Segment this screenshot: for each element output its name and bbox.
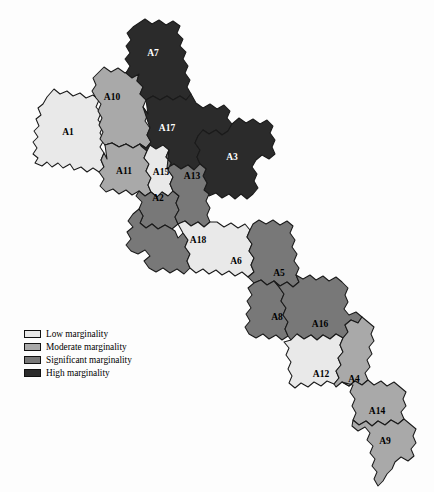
region-label-A9: A9: [379, 436, 391, 446]
legend-swatch-moderate: [24, 343, 41, 352]
region-label-A18: A18: [190, 235, 207, 245]
legend-item-high[interactable]: High marginality: [24, 367, 174, 379]
legend-label-high: High marginality: [46, 369, 110, 378]
region-label-A6: A6: [230, 256, 242, 266]
choropleth-svg: A1 A2 A3 A4 A5 A6 A7 A8 A9 A10 A11 A12 A…: [0, 0, 434, 492]
legend-label-significant: Significant marginality: [46, 356, 132, 365]
region-label-A3: A3: [226, 152, 238, 162]
region-label-A15: A15: [153, 167, 170, 177]
region-A14[interactable]: [342, 380, 406, 426]
legend-swatch-significant: [24, 356, 41, 365]
region-label-A11: A11: [116, 166, 132, 176]
region-label-A4: A4: [348, 374, 360, 384]
marginality-map-figure: A1 A2 A3 A4 A5 A6 A7 A8 A9 A10 A11 A12 A…: [0, 0, 434, 492]
region-label-A13: A13: [184, 171, 201, 181]
region-label-A14: A14: [369, 406, 386, 416]
region-label-A2: A2: [152, 193, 164, 203]
region-A12[interactable]: [284, 334, 343, 388]
region-label-A12: A12: [313, 369, 330, 379]
region-label-A10: A10: [104, 92, 121, 102]
region-label-A5: A5: [273, 268, 285, 278]
region-label-A1: A1: [62, 127, 74, 137]
region-A9[interactable]: [352, 419, 416, 486]
legend-swatch-high: [24, 369, 41, 378]
region-label-A8: A8: [271, 312, 283, 322]
legend-label-moderate: Moderate marginality: [46, 343, 127, 352]
region-label-A17: A17: [159, 123, 176, 133]
legend-swatch-low: [24, 330, 41, 339]
legend-item-low[interactable]: Low marginality: [24, 328, 174, 340]
legend-label-low: Low marginality: [46, 330, 108, 339]
region-label-A16: A16: [312, 319, 329, 329]
legend-item-moderate[interactable]: Moderate marginality: [24, 341, 174, 353]
legend: Low marginality Moderate marginality Sig…: [24, 328, 174, 380]
region-label-A7: A7: [147, 48, 159, 58]
regions-layer: [33, 19, 416, 486]
legend-item-significant[interactable]: Significant marginality: [24, 354, 174, 366]
